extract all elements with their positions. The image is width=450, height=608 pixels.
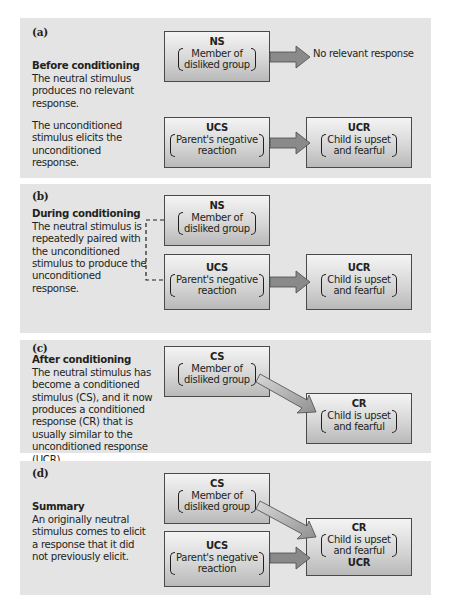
- arrow-right-icon: [270, 46, 310, 68]
- arrow-right-icon: [270, 132, 310, 154]
- panel-after-conditioning: (c) After conditioning The neutral stimu…: [20, 340, 431, 453]
- arrow-diagonal-icon: [256, 501, 316, 539]
- panel-d-arrows: [20, 461, 431, 595]
- panel-c-arrows: [20, 340, 431, 453]
- panel-summary: (d) Summary An originally neutral stimul…: [20, 461, 431, 595]
- panel-before-conditioning: (a) Before conditioning The neutral stim…: [20, 18, 431, 178]
- panel-during-conditioning: (b) During conditioning The neutral stim…: [20, 184, 431, 333]
- arrow-right-icon: [270, 547, 310, 569]
- arrow-right-icon: [270, 271, 310, 293]
- pairing-bracket-icon: [146, 220, 164, 280]
- panel-a-arrows: [20, 18, 431, 178]
- panel-b-arrows: [20, 184, 431, 333]
- arrow-diagonal-icon: [256, 374, 316, 413]
